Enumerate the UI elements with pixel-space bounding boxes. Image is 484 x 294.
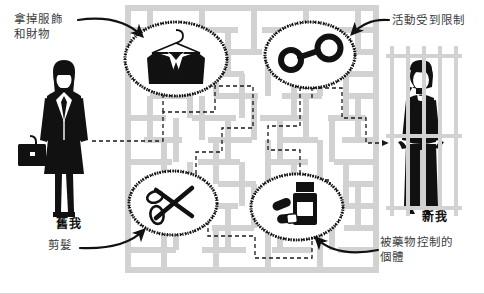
label-drug-controlled: 被藥物控制的 個體	[380, 235, 484, 265]
arrow-drug-controlled	[316, 238, 378, 252]
label-remove-clothing: 拿掉服飾 和財物	[14, 12, 114, 42]
caption-new-self: 新我	[400, 207, 470, 224]
diagram-canvas: 拿掉服飾 和財物 活動受到限制 剪髮 被藥物控制的 個體 舊我 新我	[0, 0, 484, 294]
caption-old-self: 舊我	[34, 214, 104, 231]
label-haircut: 剪髮	[48, 238, 118, 253]
label-restricted-activity: 活動受到限制	[392, 13, 484, 28]
arrow-restricted-activity	[352, 20, 389, 34]
